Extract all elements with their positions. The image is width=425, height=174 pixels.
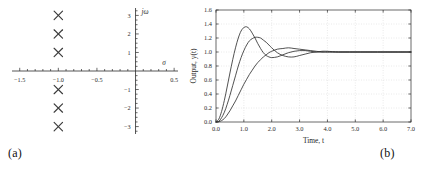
panel-a-pole-zero-plot: −1.5−1.0−0.50.5321−1−2−3 σ jω (a)	[0, 0, 190, 174]
time-tick-label: 7.0	[407, 125, 415, 132]
time-tick-label: 2.0	[268, 125, 276, 132]
jomega-tick-label: −2	[124, 104, 131, 111]
time-tick-label: 4.0	[323, 125, 331, 132]
sigma-tick-label: −1.5	[14, 76, 25, 83]
time-tick-label: 6.0	[379, 125, 387, 132]
pole-marker-x	[54, 11, 62, 19]
time-tick-label: 0.0	[212, 125, 220, 132]
time-tick-label: 1.0	[240, 125, 248, 132]
jomega-tick-label: 1	[127, 49, 130, 56]
caption-b: (b)	[380, 146, 395, 161]
jomega-tick-label: −3	[124, 123, 131, 130]
response-curve	[216, 27, 411, 122]
jomega-tick-label: −1	[124, 86, 131, 93]
figure-container: −1.5−1.0−0.50.5321−1−2−3 σ jω (a) 0.01.0…	[0, 0, 425, 174]
output-tick-label: 0.6	[204, 76, 212, 83]
jomega-tick-label: 2	[127, 30, 130, 37]
output-tick-label: 1.4	[204, 20, 213, 27]
output-tick-label: 0.0	[204, 118, 212, 125]
pole-marker-x	[54, 122, 62, 130]
time-tick-label: 5.0	[351, 125, 359, 132]
response-curve	[216, 48, 411, 122]
output-axis-label: Output, y(t)	[189, 48, 198, 83]
pole-marker-x	[54, 30, 62, 38]
time-tick-label: 3.0	[296, 125, 304, 132]
sigma-tick-label: −1.0	[53, 76, 64, 83]
output-tick-label: 1.0	[204, 48, 212, 55]
step-response-svg: 0.01.02.03.04.05.06.07.00.00.20.40.60.81…	[186, 0, 425, 145]
pole-marker-x	[54, 48, 62, 56]
output-tick-label: 1.2	[204, 34, 212, 41]
output-tick-label: 0.8	[204, 62, 212, 69]
time-axis-label: Time, t	[303, 136, 325, 145]
jomega-tick-label: 3	[127, 12, 130, 19]
pole-zero-axes	[12, 8, 178, 134]
sigma-tick-label: 0.5	[170, 76, 178, 83]
sigma-tick-label: −0.5	[91, 76, 102, 83]
response-curve	[216, 37, 411, 122]
caption-a: (a)	[8, 146, 22, 161]
output-tick-label: 0.4	[204, 90, 213, 97]
pole-marker-x	[54, 85, 62, 93]
jomega-axis-label: jω	[141, 8, 149, 16]
output-tick-label: 0.2	[204, 104, 212, 111]
sigma-axis-label: σ	[162, 59, 166, 67]
panel-b-step-response-plot: 0.01.02.03.04.05.06.07.00.00.20.40.60.81…	[186, 0, 425, 174]
pole-marker-x	[54, 104, 62, 112]
pole-zero-svg: −1.5−1.0−0.50.5321−1−2−3 σ jω	[0, 0, 190, 145]
step-response-curves-group	[216, 27, 411, 122]
output-tick-label: 1.6	[204, 6, 212, 13]
